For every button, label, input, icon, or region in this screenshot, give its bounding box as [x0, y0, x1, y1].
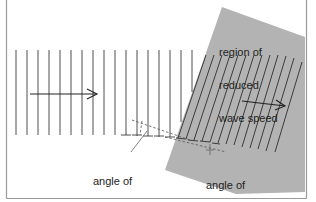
incidence-label-line1: angle of [93, 176, 139, 187]
refraction-label: angle of refraction [206, 158, 252, 202]
region-label-line3: wave speed [219, 113, 278, 124]
region-label: region of reduced wave speed [219, 25, 278, 146]
incidence-label: angle of incidence [93, 154, 139, 202]
refraction-diagram: region of reduced wave speed angle of in… [0, 0, 316, 202]
incident-arrow [30, 89, 97, 99]
region-label-line1: region of [219, 47, 278, 58]
refraction-label-line1: angle of [206, 180, 252, 191]
region-label-line2: reduced [219, 80, 278, 91]
